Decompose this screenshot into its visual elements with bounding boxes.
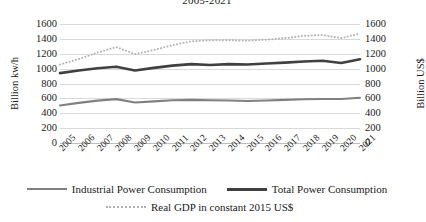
series-line	[60, 98, 360, 106]
y-tick-label-right: 1200	[365, 49, 405, 59]
chart-legend: Industrial Power Consumption Total Power…	[0, 180, 414, 216]
y-tick-label-left: 1400	[17, 34, 57, 44]
legend-item-total-power-consumption: Total Power Consumption	[227, 183, 387, 195]
legend-row-secondary: Real GDP in constant 2015 US$	[0, 198, 414, 216]
legend-item-industrial-power-consumption: Industrial Power Consumption	[27, 183, 207, 195]
y-tick-label-right: 400	[365, 108, 405, 118]
y-tick-label-left: 200	[17, 123, 57, 133]
y-tick-label-left: 400	[17, 108, 57, 118]
series-lines	[60, 24, 360, 143]
plot-area	[60, 24, 360, 143]
x-axis-labels: 2005200620072008200920102011201220132014…	[60, 146, 360, 180]
chart-title: 2005-2021	[0, 0, 414, 6]
y-tick-label-right: 600	[365, 93, 405, 103]
y-tick-label-right: 1600	[365, 19, 405, 29]
y-tick-label-left: 600	[17, 93, 57, 103]
y-tick-label-left: 0	[17, 138, 57, 148]
legend-swatch-icon	[106, 206, 146, 208]
y-tick-label-right: 200	[365, 123, 405, 133]
legend-item-real-gdp: Real GDP in constant 2015 US$	[106, 201, 293, 213]
legend-swatch-icon	[27, 188, 67, 190]
legend-label: Real GDP in constant 2015 US$	[151, 201, 293, 213]
y-tick-label-right: 800	[365, 79, 405, 89]
y-tick-label-right: 1400	[365, 34, 405, 44]
y-tick-label-left: 1000	[17, 64, 57, 74]
y-axis-title-right: Billion US$	[415, 44, 426, 124]
y-tick-label-left: 800	[17, 79, 57, 89]
legend-swatch-icon	[227, 188, 267, 191]
legend-label: Total Power Consumption	[272, 183, 387, 195]
series-line	[60, 59, 360, 73]
legend-row-primary: Industrial Power Consumption Total Power…	[0, 180, 414, 198]
y-tick-label-right: 1000	[365, 64, 405, 74]
legend-label: Industrial Power Consumption	[72, 183, 207, 195]
y-tick-label-left: 1200	[17, 49, 57, 59]
y-tick-label-left: 1600	[17, 19, 57, 29]
